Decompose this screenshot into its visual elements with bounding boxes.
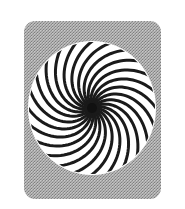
spiral-graphic xyxy=(0,0,185,209)
spiral-illustration xyxy=(0,0,185,209)
spiral-center xyxy=(87,103,97,113)
